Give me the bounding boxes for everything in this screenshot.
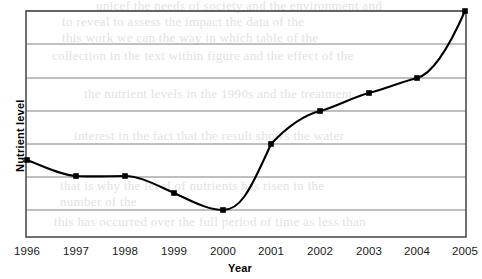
x-tick-label-1998: 1998	[101, 245, 149, 257]
x-tick-label-1997: 1997	[52, 245, 100, 257]
y-axis-title: Nutrient level	[14, 100, 26, 173]
plot-frame	[26, 11, 466, 237]
data-point-2000	[220, 207, 226, 213]
x-tick-label-2001: 2001	[247, 245, 295, 257]
x-tick-label-2005: 2005	[441, 245, 482, 257]
data-point-2005	[462, 8, 468, 14]
data-point-1997	[73, 173, 79, 179]
data-point-2004	[414, 75, 420, 81]
horizontal-gridlines	[26, 11, 466, 210]
x-tick-label-2000: 2000	[199, 245, 247, 257]
data-point-2002	[317, 108, 323, 114]
x-tick-label-2004: 2004	[393, 245, 441, 257]
x-tick-label-2003: 2003	[345, 245, 393, 257]
x-tick-label-1996: 1996	[3, 245, 51, 257]
data-point-1998	[122, 173, 128, 179]
data-point-1999	[171, 190, 177, 196]
data-point-2001	[268, 141, 274, 147]
x-tick-label-2002: 2002	[296, 245, 344, 257]
x-axis-title: Year	[200, 262, 280, 274]
x-tick-label-1999: 1999	[150, 245, 198, 257]
data-point-2003	[366, 90, 372, 96]
